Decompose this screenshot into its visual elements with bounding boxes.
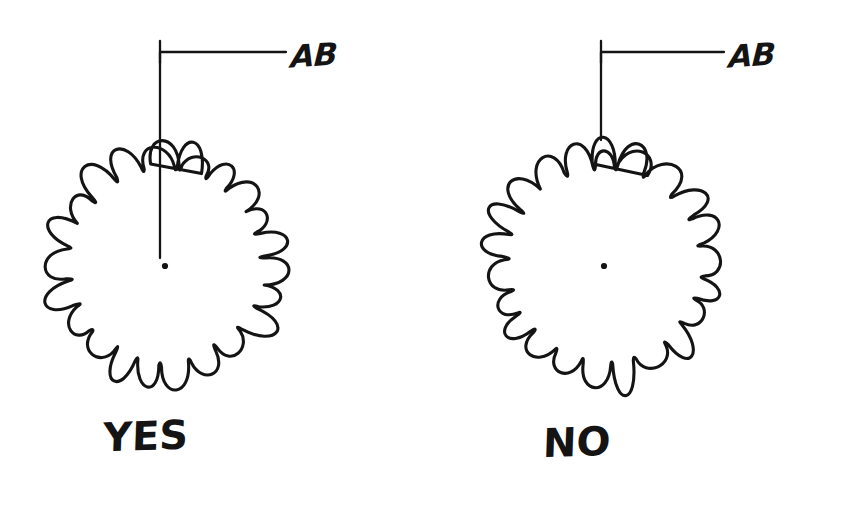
verdict-label-yes: YES [102, 412, 189, 461]
diagram-page: AB AB YES NO [0, 0, 851, 526]
figure-left-yes [45, 41, 289, 390]
figure-right-no [481, 41, 724, 396]
center-point-left [162, 263, 168, 269]
leader-label-left: AB [290, 35, 338, 74]
center-point-right [601, 263, 607, 269]
verdict-label-no: NO [542, 418, 611, 466]
leader-line-right [601, 52, 724, 140]
leader-label-right: AB [728, 35, 776, 74]
